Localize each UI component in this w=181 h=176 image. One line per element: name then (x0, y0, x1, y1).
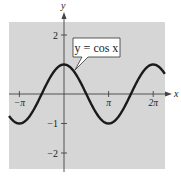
y-tick-label: −1 (47, 118, 58, 129)
y-axis-label: y (60, 0, 66, 11)
x-axis-label: x (173, 88, 179, 99)
y-axis-arrow-icon (62, 12, 67, 19)
callout-label: y = cos x (75, 41, 119, 55)
y-tick-label: 2 (53, 30, 58, 41)
cosine-chart: −ππ2π2−1−2 y = cos x x y (0, 0, 181, 176)
x-axis-arrow-icon (165, 92, 172, 97)
x-tick-label: 2π (148, 98, 158, 108)
x-tick-label: π (106, 98, 111, 108)
x-tick-label: −π (14, 98, 25, 108)
y-tick-label: −2 (47, 148, 58, 159)
